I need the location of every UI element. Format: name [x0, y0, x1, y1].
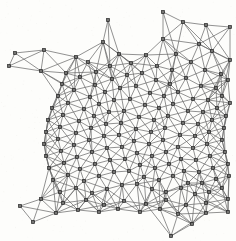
- mesh-node-center: [78, 120, 79, 121]
- mesh-node-center: [179, 134, 180, 135]
- mesh-node-center: [89, 96, 90, 97]
- mesh-node: [134, 127, 137, 130]
- mesh-node: [157, 106, 160, 109]
- mesh-node: [204, 211, 207, 214]
- mesh-node-center: [14, 52, 15, 53]
- mesh-node: [78, 75, 81, 78]
- mesh-node: [97, 102, 100, 105]
- mesh-node: [102, 134, 105, 137]
- mesh-node: [76, 208, 79, 211]
- mesh-node-center: [45, 155, 46, 156]
- mesh-node: [168, 82, 171, 85]
- mesh-node: [105, 187, 108, 190]
- mesh-node-center: [208, 131, 209, 132]
- mesh-node-center: [145, 203, 146, 204]
- mesh-node-center: [83, 180, 84, 181]
- mesh-node: [148, 91, 151, 94]
- mesh-node-center: [98, 211, 99, 212]
- mesh-node-center: [75, 56, 76, 57]
- mesh-node: [39, 69, 42, 72]
- mesh-node: [226, 210, 229, 213]
- mesh-node-center: [204, 69, 205, 70]
- mesh-node: [161, 37, 164, 40]
- mesh-node-center: [67, 174, 68, 175]
- mesh-node-center: [207, 99, 208, 100]
- mesh-node: [206, 98, 209, 101]
- mesh-node-center: [185, 204, 186, 205]
- mesh-node: [228, 101, 231, 104]
- mesh-node-center: [171, 69, 172, 70]
- mesh-node-center: [135, 85, 136, 86]
- mesh-node: [127, 169, 130, 172]
- mesh-node-center: [221, 95, 222, 96]
- mesh-node: [78, 167, 81, 170]
- mesh-node: [123, 157, 126, 160]
- mesh-node: [144, 53, 147, 56]
- mesh-node: [191, 97, 194, 100]
- mesh-node: [135, 182, 138, 185]
- mesh-node: [179, 157, 182, 160]
- mesh-node-center: [194, 193, 195, 194]
- mesh-node: [117, 133, 120, 136]
- mesh-node: [143, 103, 146, 106]
- mesh-node: [138, 163, 141, 166]
- mesh-node: [220, 186, 223, 189]
- mesh-node-center: [136, 183, 137, 184]
- mesh-node: [97, 210, 100, 213]
- mesh-node-center: [57, 138, 58, 139]
- mesh-node-center: [192, 147, 193, 148]
- mesh-node: [44, 154, 47, 157]
- mesh-node-center: [93, 115, 94, 116]
- mesh-node-center: [180, 187, 181, 188]
- mesh-node: [120, 145, 123, 148]
- mesh-node-center: [150, 131, 151, 132]
- mesh-node-center: [113, 171, 114, 172]
- mesh-node-center: [40, 198, 41, 199]
- mesh-node: [62, 161, 65, 164]
- mesh-node-center: [67, 102, 68, 103]
- mesh-node: [129, 61, 132, 64]
- mesh-node-center: [117, 208, 118, 209]
- mesh-node-center: [165, 191, 166, 192]
- mesh-node-center: [215, 178, 216, 179]
- mesh-node-center: [108, 111, 109, 112]
- mesh-node-center: [195, 159, 196, 160]
- mesh-node: [205, 142, 208, 145]
- mesh-node-center: [185, 77, 186, 78]
- mesh-node-center: [87, 61, 88, 62]
- mesh-node: [44, 130, 47, 133]
- mesh-node: [138, 210, 141, 213]
- mesh-node-center: [153, 119, 154, 120]
- mesh-node-center: [124, 158, 125, 159]
- mesh-node-center: [113, 99, 114, 100]
- mesh-node: [118, 86, 121, 89]
- mesh-node-center: [175, 53, 176, 54]
- mesh-node-center: [104, 91, 105, 92]
- mesh-node: [219, 72, 222, 75]
- mesh-node-center: [205, 202, 206, 203]
- mesh-node-center: [98, 175, 99, 176]
- mesh-node-center: [85, 199, 86, 200]
- mesh-node-center: [149, 92, 150, 93]
- mesh-node-center: [109, 65, 110, 66]
- mesh-node-center: [167, 115, 168, 116]
- mesh-node: [116, 207, 119, 210]
- mesh-node-center: [163, 95, 164, 96]
- mesh-node-center: [172, 175, 173, 176]
- mesh-node-center: [102, 41, 103, 42]
- mesh-node-center: [62, 202, 63, 203]
- mesh-node-center: [205, 212, 206, 213]
- mesh-node: [193, 134, 196, 137]
- mesh-node: [58, 125, 61, 128]
- mesh-node: [89, 126, 92, 129]
- mesh-node-center: [52, 179, 53, 180]
- mesh-node: [135, 151, 138, 154]
- mesh-node-center: [227, 163, 228, 164]
- mesh-node-center: [103, 204, 104, 205]
- mesh-node-center: [206, 143, 207, 144]
- mesh-node: [77, 119, 80, 122]
- mesh-node: [152, 118, 155, 121]
- mesh-node: [197, 42, 200, 45]
- mesh-node-center: [209, 155, 210, 156]
- mesh-node: [149, 130, 152, 133]
